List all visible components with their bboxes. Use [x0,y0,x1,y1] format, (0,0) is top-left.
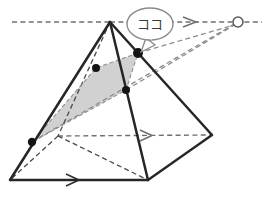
section-dot-P3 [122,86,130,94]
diagram-canvas: ココ [0,0,267,202]
mid-dashed-horizontal [58,135,212,136]
edge-base-front-to-right [148,135,212,180]
perspective-pyramid-svg: ココ [0,0,267,202]
callout-label: ココ [137,17,163,32]
hidden-edge-back-to-front [58,136,148,180]
edge-apex-to-base-front [110,22,148,180]
shaded-cross-section [32,53,138,142]
section-dot-P0 [28,138,36,146]
section-dot-P1 [92,64,100,72]
vanishing-point-circle-icon [233,17,243,27]
